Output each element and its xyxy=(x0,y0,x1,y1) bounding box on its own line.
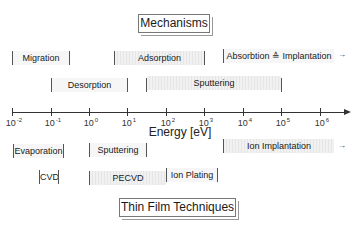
axis-tick xyxy=(166,108,167,116)
axis-title: Energy [eV] xyxy=(149,125,212,139)
axis-tick-label: 101 xyxy=(122,117,136,128)
axis-tick-label: 104 xyxy=(238,117,252,128)
axis-tick xyxy=(204,108,205,116)
technique-ion-plating: Ion Plating xyxy=(167,168,217,182)
technique-cvd: CVD xyxy=(40,170,58,184)
range-bar xyxy=(204,51,205,65)
axis-tick xyxy=(281,108,282,116)
technique-sputtering: Sputtering xyxy=(90,143,146,157)
axis-arrow-icon xyxy=(344,109,351,115)
axis-tick xyxy=(89,108,90,116)
axis-tick-label: 10-1 xyxy=(45,117,61,128)
axis-tick xyxy=(243,108,244,116)
mechanism-adsorption: Adsorption xyxy=(115,51,204,65)
range-bar xyxy=(217,168,218,182)
technique-evaporation: Evaporation xyxy=(14,144,63,158)
range-bar xyxy=(63,144,64,158)
continues-arrow-icon: → xyxy=(338,50,346,59)
technique-pecvd: PECVD xyxy=(90,171,166,185)
axis-tick xyxy=(127,108,128,116)
mechanism-absorbtion-implantation: Absorbtion ≙ Implantation xyxy=(224,49,334,63)
range-bar xyxy=(281,78,282,92)
energy-axis xyxy=(12,112,346,113)
axis-tick xyxy=(12,108,13,116)
axis-tick-label: 10-2 xyxy=(6,117,22,128)
range-bar xyxy=(58,170,59,184)
axis-tick-label: 106 xyxy=(315,117,329,128)
axis-tick xyxy=(320,108,321,116)
axis-tick xyxy=(51,108,52,116)
continues-arrow-icon: → xyxy=(338,141,346,150)
axis-tick-label: 100 xyxy=(84,117,98,128)
range-bar xyxy=(127,78,128,92)
mechanism-desorption: Desorption xyxy=(52,78,127,92)
range-bar xyxy=(146,143,147,157)
thin-film-techniques-title: Thin Film Techniques xyxy=(119,198,236,217)
range-bar xyxy=(69,51,70,65)
mechanisms-title: Mechanisms xyxy=(138,14,210,33)
axis-tick-label: 105 xyxy=(276,117,290,128)
technique-ion-implantation: Ion Implantation xyxy=(224,139,334,153)
mechanism-migration: Migration xyxy=(13,51,69,65)
mechanism-sputtering: Sputtering xyxy=(147,76,281,90)
